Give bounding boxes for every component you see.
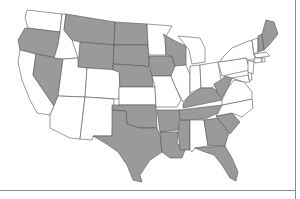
state-ks[interactable] <box>119 87 156 105</box>
state-wy[interactable] <box>78 42 114 70</box>
state-co[interactable] <box>85 68 120 99</box>
state-nm[interactable] <box>80 97 114 140</box>
state-ri[interactable] <box>262 58 265 62</box>
state-az[interactable] <box>50 96 85 139</box>
state-nj[interactable] <box>248 60 254 74</box>
state-me[interactable] <box>262 20 278 50</box>
us-map <box>0 0 300 199</box>
state-nd[interactable] <box>114 22 148 45</box>
state-ct[interactable] <box>254 58 262 63</box>
state-ia[interactable] <box>149 56 175 76</box>
state-ar[interactable] <box>157 110 180 132</box>
state-ms[interactable] <box>178 120 190 150</box>
map-frame <box>0 0 300 199</box>
state-fl[interactable] <box>195 146 238 181</box>
bottom-rule <box>0 190 296 191</box>
right-rule <box>295 0 296 199</box>
